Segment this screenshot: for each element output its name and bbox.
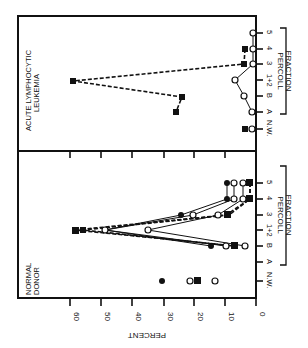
frac-B: B	[265, 93, 274, 98]
top-series-open-circle	[232, 30, 256, 132]
top-panel-title-2: LEUKEMIA	[32, 74, 41, 112]
fraction-tick-labels: 5 4 3 1+2 B A N.W. 5 4 3 1+2 B A N.W.	[265, 30, 274, 288]
frac-1plus2: 1+2	[265, 74, 274, 87]
frac-NW: N.W.	[265, 120, 274, 136]
tick-0: 0	[258, 312, 267, 317]
frac-B-b: B	[265, 243, 274, 248]
fraction-label-top: FRACTION	[284, 51, 293, 92]
tick-50: 50	[103, 312, 112, 321]
frac-3: 3	[265, 61, 274, 65]
tick-20: 20	[196, 312, 205, 321]
bottom-lines	[75, 183, 250, 246]
fraction-labels: PERCOLL FRACTION PERCOLL FRACTION	[276, 51, 293, 236]
fraction-axis	[256, 33, 263, 281]
tick-60: 60	[72, 312, 81, 321]
frac-A: A	[265, 109, 274, 114]
frac-4-b: 4	[265, 196, 274, 200]
frac-5: 5	[265, 30, 274, 34]
frac-4: 4	[265, 46, 274, 50]
percent-tick-labels: 60 50 40 30 20 10 0	[72, 312, 267, 321]
frac-A-b: A	[265, 259, 274, 264]
tick-30: 30	[166, 312, 175, 321]
percoll-label-bottom: PERCOLL	[276, 196, 285, 234]
percoll-label-top: PERCOLL	[276, 52, 285, 90]
tick-40: 40	[134, 312, 143, 321]
tick-10: 10	[227, 312, 236, 321]
panel-titles: ACUTE LYMPHOCYTIC LEUKEMIA NORMAL DONOR	[24, 49, 41, 295]
frac-NW-b: N.W.	[265, 272, 274, 288]
chart-frame	[18, 16, 256, 298]
top-series-filled-square	[70, 46, 248, 132]
fraction-label-bottom: FRACTION	[284, 195, 293, 236]
frac-5-b: 5	[265, 180, 274, 184]
percent-axis-label: PERCENT	[128, 331, 166, 340]
chart-figure: 60 50 40 30 20 10 0 PERCENT 5 4 3 1+2 B …	[0, 0, 308, 348]
bottom-panel-title-2: DONOR	[32, 267, 41, 296]
frac-1plus2-b: 1+2	[265, 224, 274, 237]
frac-3-b: 3	[265, 212, 274, 216]
